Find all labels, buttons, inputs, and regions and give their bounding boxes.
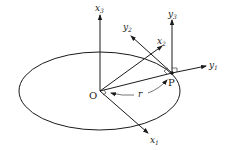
point-p-label: P — [168, 77, 175, 88]
radius-arc-left — [111, 93, 134, 95]
y1-label: y1 — [208, 60, 218, 71]
y3-label: y3 — [167, 9, 177, 20]
radius-arc-right — [148, 80, 167, 93]
orbit-diagram: O P r x3 x2 x1 y3 y2 y1 — [0, 0, 229, 150]
x2-label: x2 — [157, 36, 166, 47]
x1-label: x1 — [150, 135, 159, 146]
radius-vector — [100, 73, 172, 91]
origin-label: O — [89, 90, 97, 101]
point-p — [170, 71, 174, 75]
x3-label: x3 — [95, 3, 104, 14]
y2-label: y2 — [122, 22, 132, 33]
radius-label: r — [138, 89, 143, 99]
